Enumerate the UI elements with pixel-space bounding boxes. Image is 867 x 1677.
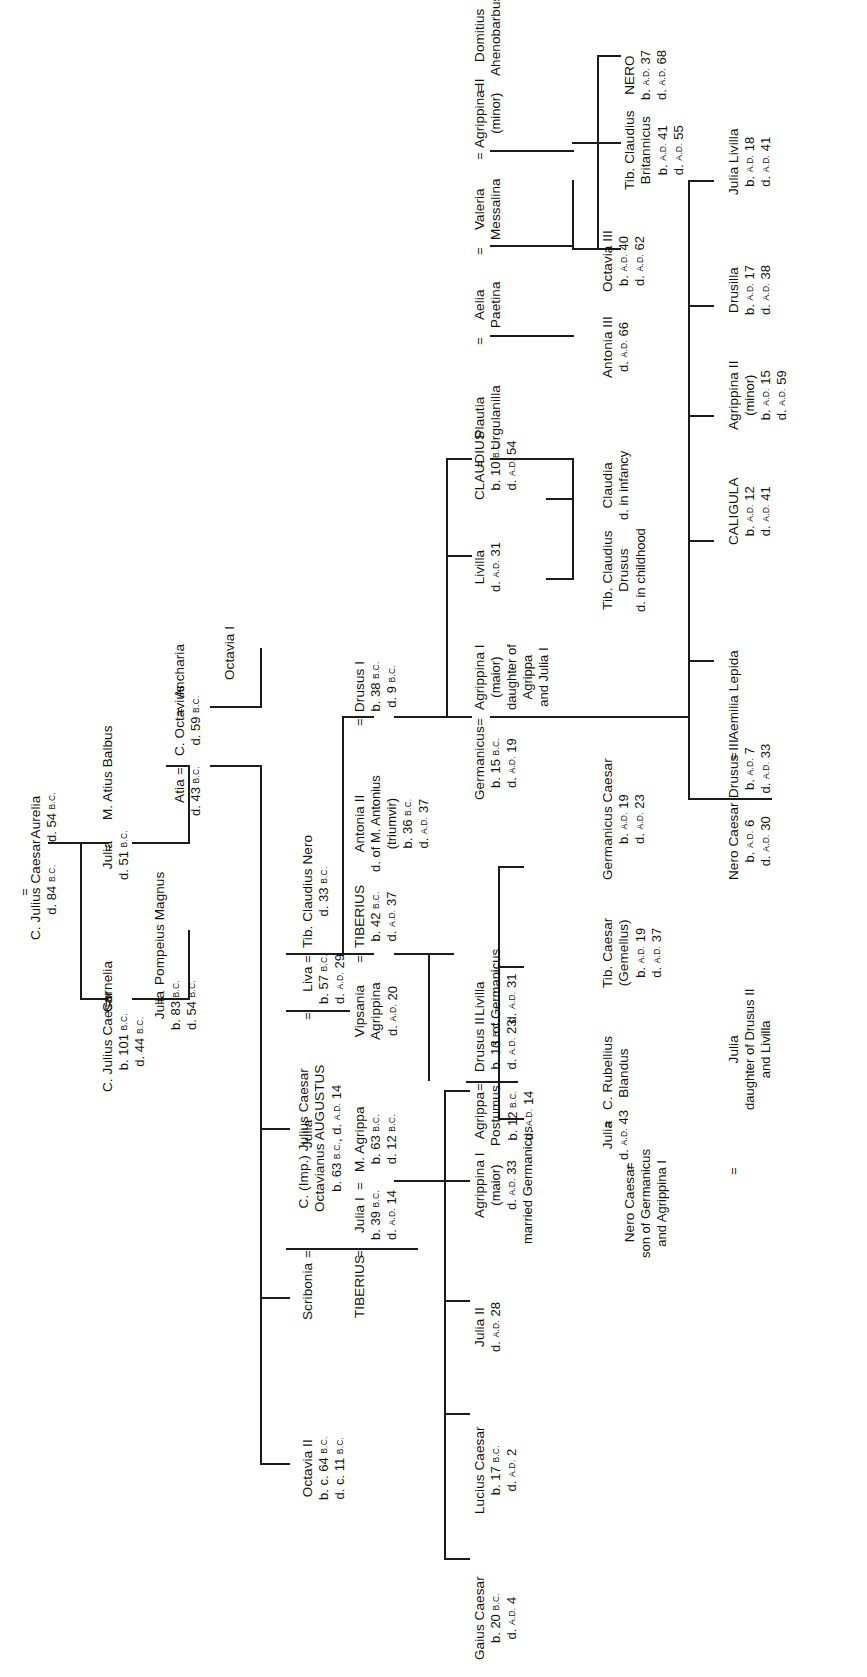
person-nero-caesar: Nero Caesar b. A.D. 6 d. A.D. 30 [726, 802, 774, 880]
person-name: Gaius Caesar [472, 1576, 488, 1660]
person-note-2: daughter of [504, 644, 520, 710]
person-death: d. A.D. 30 [758, 802, 774, 880]
person-name: Tib. Claudius Nero [300, 835, 316, 948]
person-death: d. A.D. 54 [504, 431, 520, 500]
connector [444, 1300, 470, 1302]
person-death: d. 12 B.C. [384, 1106, 400, 1172]
person-domitius-ahenobarbus: Domitius Ahenobarbus [472, 0, 505, 76]
person-name: Julia [726, 989, 742, 1110]
person-name: Pompeius Magnus [152, 872, 168, 985]
person-name-line1: Valeria [472, 178, 488, 240]
person-death: d. A.D. 37 [384, 885, 400, 948]
connector [394, 1180, 446, 1182]
person-julia-drusus-ii: Julia daughter of Drusus II and Livilla [726, 989, 774, 1110]
person-julia-ii: Julia II d. A.D. 28 [472, 1302, 504, 1352]
union-marker: = [300, 1012, 315, 1020]
person-birth: b. 101 B.C. [116, 991, 132, 1092]
person-livilla: Livilla d. A.D. 31 [472, 542, 504, 592]
person-note-1: son of Germanicus [638, 1149, 654, 1258]
person-valeria-messalina: Valeria Messalina [472, 178, 505, 240]
person-death: d. A.D. 28 [488, 1302, 504, 1352]
person-name-line2: Messalina [488, 178, 504, 240]
person-name-line1: Aelia [472, 282, 488, 329]
person-note-1: (maior) [488, 644, 504, 710]
person-birth: b. 63 B.C. [368, 1106, 384, 1172]
union-marker: = [472, 460, 487, 468]
union-marker: = [17, 888, 32, 896]
connector [688, 660, 714, 662]
person-death: d. A.D. 41 [758, 477, 774, 545]
person-note-1: daughter of Drusus II [742, 989, 758, 1110]
connector [260, 765, 262, 1465]
union-marker: = [472, 152, 487, 160]
connector [597, 142, 599, 248]
connector [444, 1090, 470, 1092]
person-birth: b. 36 B.C. [400, 775, 416, 872]
person-name-line2: Drusus [616, 528, 632, 612]
person-birth: b. A.D. 17 [742, 265, 758, 315]
connector [688, 540, 714, 542]
person-name: Antonia III [600, 316, 616, 378]
person-name: Julia Livilla [726, 128, 742, 195]
person-death: d. A.D. 41 [758, 128, 774, 195]
person-scribonia: Scribonia [300, 1263, 316, 1320]
person-death: d. A.D. 20 [385, 982, 401, 1040]
connector [444, 1558, 470, 1560]
person-death: d. A.D. 55 [671, 110, 687, 190]
person-agrippa-postumus: Agrippa Postumus b. 12 B.C. d. A.D. 14 [472, 1085, 537, 1146]
person-death: d. 33 B.C. [316, 835, 332, 948]
person-c-julius-caesar-elder: C. Julius Caesar d. 84 B.C. [28, 839, 60, 940]
person-birth: b. A.D. 6 [742, 802, 758, 880]
person-death: d. A.D. 37 [649, 918, 665, 988]
connector [446, 555, 472, 557]
person-death: d. 43 B.C. [188, 766, 204, 816]
connector [490, 150, 574, 152]
connector [597, 55, 599, 145]
person-death: d. A.D. 31 [504, 949, 520, 1048]
connector [394, 716, 448, 718]
person-aemilia-lepida: Aemilia Lepida [726, 650, 742, 740]
connector [446, 716, 472, 718]
person-death: d. A.D. 4 [504, 1576, 520, 1660]
person-name: M. Atius Balbus [100, 725, 116, 820]
person-octavia-i: Octavia I [222, 626, 238, 680]
connector [714, 798, 772, 800]
person-m-atius-balbus: M. Atius Balbus [100, 725, 116, 820]
person-name: Octavia III [600, 230, 616, 292]
person-pompeius-magnus: Pompeius Magnus [152, 872, 168, 985]
person-birth: b. A.D. 18 [742, 128, 758, 195]
person-note-2: and Livilla [758, 989, 774, 1110]
person-name: Octavia I [222, 626, 238, 680]
person-name: Octavia II [300, 1436, 316, 1500]
person-aurelia: Aurelia d. 54 B.C. [28, 792, 60, 842]
person-note-4: and Julia I [536, 644, 552, 710]
person-name-line1: Tib. Claudius [600, 528, 616, 612]
union-marker: = [472, 718, 487, 726]
person-julia-livilla: Julia Livilla b. A.D. 18 d. A.D. 41 [726, 128, 774, 195]
person-birth: b. 12 B.C. [505, 1085, 521, 1146]
person-birth: b. A.D. 19 [633, 918, 649, 988]
person-ancharia: Ancharia [172, 644, 188, 698]
union-marker: = [100, 1000, 115, 1008]
connector [498, 866, 524, 868]
person-livilla-germ: Livilla d. of Germanicus d. A.D. 31 [472, 949, 520, 1048]
union-marker: = [152, 996, 167, 1004]
connector [572, 180, 574, 248]
person-tib-claudius-drusus: Tib. Claudius Drusus d. in childhood [600, 528, 649, 612]
person-death: d. A.D. 2 [504, 1426, 520, 1514]
connector [572, 458, 574, 578]
person-name: NERO [622, 50, 638, 100]
person-note-1: d. of M. Antonius [368, 775, 384, 872]
person-name: Julia [600, 1110, 616, 1160]
person-note-2: and Agrippina I [654, 1149, 670, 1258]
person-death: d. A.D. 62 [632, 230, 648, 292]
person-birth: b. A.D. 37 [638, 50, 654, 100]
person-tib-caesar-gemellus: Tib. Caesar (Gemellus) b. A.D. 19 d. A.D… [600, 918, 665, 988]
person-julia-b83: Julia b. 83 B.C. d. 54 B.C. [152, 980, 200, 1030]
person-birth: b. A.D. 41 [655, 110, 671, 190]
person-name: Ancharia [172, 644, 188, 698]
person-c-rubellius-blandus: C. Rubellius Blandus [600, 1036, 633, 1110]
person-augustus: C. (Imp.) Julius Caesar Octavianus AUGUS… [296, 1065, 345, 1212]
person-name: Germanicus Caesar [600, 758, 616, 880]
family-tree-diagram: C. Julius Caesar d. 84 B.C. Aurelia d. 5… [0, 0, 867, 1677]
